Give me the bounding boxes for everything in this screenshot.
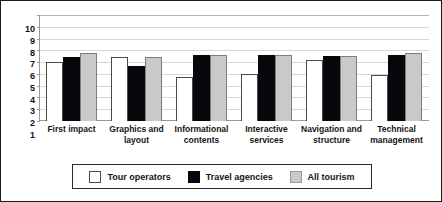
bar-tour-operators-graphics-and-layout xyxy=(111,57,128,121)
y-tick-label-4: 4 xyxy=(5,95,35,104)
y-tick-label-5: 5 xyxy=(5,83,35,92)
bar-tour-operators-navigation-and-structure xyxy=(306,60,323,121)
bar-tour-operators-interactive-services xyxy=(241,74,258,121)
plot-area xyxy=(39,15,429,121)
bar-travel-agencies-first-impact xyxy=(63,57,80,121)
bar-travel-agencies-interactive-services xyxy=(258,55,275,121)
y-tick-label-2: 2 xyxy=(5,119,35,128)
legend-label-tour-operators: Tour operators xyxy=(107,172,170,182)
bar-travel-agencies-informational-contents xyxy=(193,55,210,121)
bar-group-graphics-and-layout xyxy=(104,15,169,121)
x-label-first-impact: First impact xyxy=(39,124,104,145)
bar-tour-operators-technical-management xyxy=(371,75,388,121)
x-label-navigation-and-structure: Navigation and structure xyxy=(299,124,364,145)
x-label-graphics-and-layout: Graphics and layout xyxy=(104,124,169,145)
legend-entry-tour-operators: Tour operators xyxy=(89,171,170,183)
bar-all-tourism-interactive-services xyxy=(275,55,292,121)
legend-swatch-tour-operators xyxy=(89,171,101,183)
y-tick-label-6: 6 xyxy=(5,72,35,81)
bar-all-tourism-technical-management xyxy=(405,53,422,121)
y-tick-label-1: 1 xyxy=(5,131,35,140)
legend-entry-all-tourism: All tourism xyxy=(290,171,355,183)
bar-travel-agencies-graphics-and-layout xyxy=(128,66,145,121)
bar-travel-agencies-technical-management xyxy=(388,55,405,121)
bar-travel-agencies-navigation-and-structure xyxy=(323,56,340,121)
x-axis-category-labels: First impactGraphics and layoutInformati… xyxy=(39,124,429,145)
legend-swatch-travel-agencies xyxy=(188,171,200,183)
legend-swatch-all-tourism xyxy=(290,171,302,183)
legend-label-travel-agencies: Travel agencies xyxy=(206,172,273,182)
bar-tour-operators-informational-contents xyxy=(176,77,193,121)
x-label-technical-management: Technical management xyxy=(364,124,429,145)
y-tick-label-7: 7 xyxy=(5,60,35,69)
x-label-informational-contents: Informational contents xyxy=(169,124,234,145)
y-tick-label-3: 3 xyxy=(5,107,35,116)
chart-legend: Tour operatorsTravel agenciesAll tourism xyxy=(72,164,372,189)
bars-layer xyxy=(39,15,429,121)
bar-group-navigation-and-structure xyxy=(299,15,364,121)
bar-group-interactive-services xyxy=(234,15,299,121)
y-axis: 12345678910 xyxy=(1,15,35,121)
legend-entry-travel-agencies: Travel agencies xyxy=(188,171,273,183)
bar-group-technical-management xyxy=(364,15,429,121)
y-tick-label-10: 10 xyxy=(5,25,35,34)
bar-group-informational-contents xyxy=(169,15,234,121)
y-tick-label-8: 8 xyxy=(5,48,35,57)
bar-group-first-impact xyxy=(39,15,104,121)
x-label-interactive-services: Interactive services xyxy=(234,124,299,145)
y-tick-mark-1 xyxy=(37,121,40,122)
y-tick-label-9: 9 xyxy=(5,36,35,45)
bar-all-tourism-informational-contents xyxy=(210,55,227,121)
bar-tour-operators-first-impact xyxy=(46,62,63,121)
bar-all-tourism-first-impact xyxy=(80,53,97,121)
bar-all-tourism-navigation-and-structure xyxy=(340,56,357,121)
bar-all-tourism-graphics-and-layout xyxy=(145,57,162,121)
legend-label-all-tourism: All tourism xyxy=(308,172,355,182)
chart-figure: 12345678910 First impactGraphics and lay… xyxy=(0,0,442,202)
